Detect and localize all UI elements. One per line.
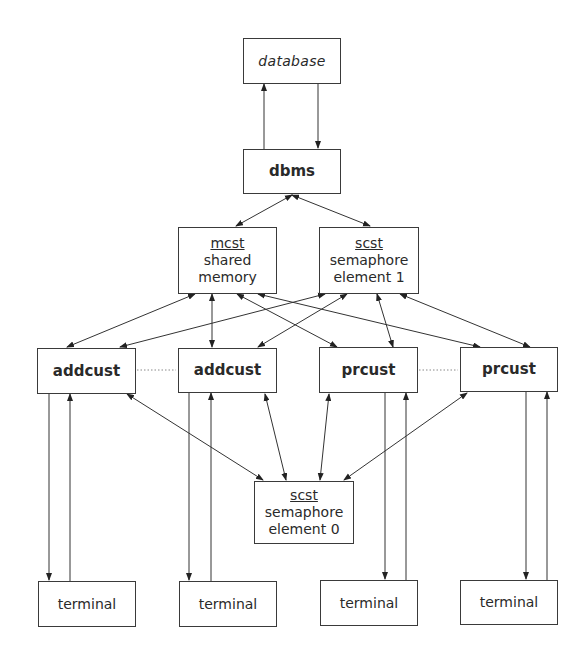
arrow-scst1-prcust1 (377, 294, 393, 347)
arrow-prcust1-scst0 (320, 394, 329, 480)
terminal3-label: terminal (340, 595, 398, 612)
arrow-mcst-prcust1 (237, 294, 337, 347)
arrow-mcst-addcust1 (67, 294, 195, 347)
arrow-scst1-addcust2 (258, 294, 347, 347)
scst1-line1: semaphore (330, 252, 409, 269)
addcust2-label: addcust (194, 362, 261, 379)
prcust-node-1: prcust (319, 347, 418, 393)
terminal4-label: terminal (480, 594, 538, 611)
database-node: database (243, 38, 341, 84)
mcst-shared-memory-node: mcst shared memory (178, 227, 277, 294)
terminal-node-1: terminal (38, 581, 136, 627)
prcust1-label: prcust (342, 362, 396, 379)
prcust2-label: prcust (482, 361, 536, 378)
addcust1-label: addcust (53, 363, 120, 380)
mcst-title: mcst (210, 235, 244, 252)
scst0-line2: element 0 (268, 521, 339, 538)
terminal-node-2: terminal (179, 581, 277, 627)
scst0-line1: semaphore (265, 504, 344, 521)
scst1-line2: element 1 (333, 269, 404, 286)
scst-semaphore-element-1-node: scst semaphore element 1 (319, 227, 419, 294)
dbms-label: dbms (269, 163, 315, 180)
addcust-node-2: addcust (178, 348, 277, 393)
arrow-scst1-prcust2 (400, 294, 530, 347)
mcst-line1: shared (204, 252, 252, 269)
arrow-dbms-scst1 (292, 195, 370, 226)
connector-layer (0, 0, 586, 660)
arrow-scst1-addcust1 (120, 294, 325, 347)
dbms-node: dbms (243, 149, 341, 194)
scst1-title: scst (355, 235, 383, 252)
terminal-node-4: terminal (460, 580, 558, 625)
database-label: database (258, 53, 325, 70)
arrow-addcust1-scst0 (127, 394, 263, 480)
scst-semaphore-element-0-node: scst semaphore element 0 (254, 481, 354, 544)
scst0-title: scst (290, 487, 318, 504)
arrow-dbms-mcst (236, 195, 292, 226)
arrow-addcust2-scst0 (265, 394, 286, 480)
arrow-mcst-prcust2 (258, 294, 480, 347)
addcust-node-1: addcust (37, 348, 136, 394)
mcst-line2: memory (198, 269, 257, 286)
terminal1-label: terminal (58, 596, 116, 613)
process-diagram: database dbms mcst shared memory scst se… (0, 0, 586, 660)
terminal-node-3: terminal (320, 580, 418, 626)
prcust-node-2: prcust (460, 347, 558, 392)
terminal2-label: terminal (199, 596, 257, 613)
